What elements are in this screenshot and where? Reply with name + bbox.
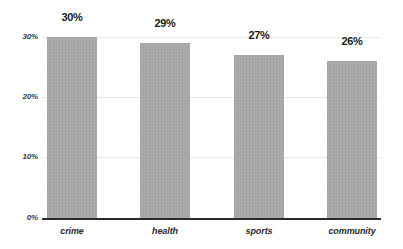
bar-sports[interactable] — [234, 55, 284, 218]
y-axis-tick-label-10: 10% — [4, 152, 38, 161]
x-axis-category-label-sports: sports — [220, 226, 298, 237]
bar-value-label-sports: 27% — [234, 29, 284, 41]
bar-chart: 30% 20% 10% 0% 30% 29% 27% 26% crime hea… — [0, 0, 403, 249]
x-axis-category-label-crime: crime — [33, 226, 111, 237]
y-axis-tick-label-20: 20% — [4, 92, 38, 101]
y-axis-tick-label-30: 30% — [4, 32, 38, 41]
bar-health[interactable] — [140, 43, 190, 218]
x-axis-category-label-community: community — [313, 226, 391, 237]
bar-value-label-health: 29% — [140, 17, 190, 29]
bar-value-label-community: 26% — [327, 35, 377, 47]
x-axis-line — [42, 218, 381, 220]
x-axis-category-label-health: health — [126, 226, 204, 237]
bar-community[interactable] — [327, 61, 377, 218]
bar-crime[interactable] — [47, 37, 97, 218]
y-axis-tick-label-0: 0% — [4, 213, 38, 222]
plot-area: 30% 20% 10% 0% 30% 29% 27% 26% crime hea… — [0, 0, 403, 249]
bar-value-label-crime: 30% — [47, 11, 97, 23]
